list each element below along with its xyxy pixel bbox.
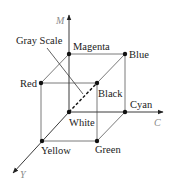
point-green: [95, 139, 99, 143]
label-black: Black: [98, 88, 123, 99]
c-axis-label: C: [154, 117, 161, 128]
point-magenta: [67, 52, 71, 56]
y-axis-label: Y: [20, 169, 27, 180]
cmy-color-cube-diagram: M C Y Gray Scale Magenta Blue Red Black …: [0, 0, 170, 186]
label-red: Red: [20, 78, 38, 89]
label-magenta: Magenta: [73, 41, 110, 52]
label-gray-scale: Gray Scale: [16, 35, 63, 46]
edge-cyan-green: [97, 112, 125, 141]
label-green: Green: [95, 144, 121, 155]
label-cyan: Cyan: [130, 99, 153, 110]
point-blue: [123, 52, 127, 56]
point-white: [67, 110, 71, 114]
label-white: White: [69, 117, 95, 128]
point-red: [39, 81, 43, 85]
label-blue: Blue: [129, 49, 149, 60]
label-yellow: Yellow: [41, 145, 71, 156]
point-cyan: [123, 110, 127, 114]
edge-blue-black: [97, 54, 125, 83]
gray-scale-diagonal: [69, 83, 97, 112]
m-axis-label: M: [55, 15, 65, 26]
point-black: [95, 81, 99, 85]
point-yellow: [40, 139, 44, 143]
